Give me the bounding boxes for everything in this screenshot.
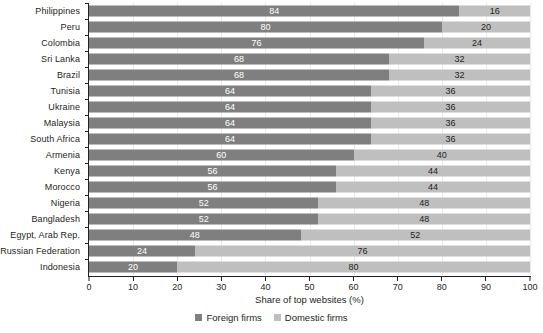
x-tick-label: 50: [304, 283, 314, 292]
category-label: Ukraine: [0, 99, 84, 115]
bar-value-label: 32: [454, 55, 464, 64]
category-label: Colombia: [0, 35, 84, 51]
category-label: Philippines: [0, 3, 84, 19]
legend-label: Domestic firms: [285, 313, 348, 323]
category-label: Tunisia: [0, 83, 84, 99]
bar-row: 6832: [89, 67, 530, 83]
category-label: Egypt, Arab Rep.: [0, 227, 84, 243]
bar-row: 5248: [89, 211, 530, 227]
bar-segment-foreign: 80: [89, 22, 442, 33]
bar-segment-foreign: 56: [89, 182, 336, 193]
bar-track: 6040: [89, 150, 530, 161]
bar-segment-foreign: 48: [89, 230, 301, 241]
bar-segment-domestic: 48: [318, 214, 530, 225]
bar-row: 6436: [89, 115, 530, 131]
bar-value-label: 36: [446, 135, 456, 144]
legend-swatch-icon: [195, 314, 202, 321]
bar-track: 2476: [89, 246, 530, 257]
x-tick-label: 60: [349, 283, 359, 292]
bar-row: 7624: [89, 35, 530, 51]
category-label: Morocco: [0, 179, 84, 195]
bar-segment-domestic: 48: [318, 198, 530, 209]
category-label: Nigeria: [0, 195, 84, 211]
bar-segment-foreign: 64: [89, 102, 371, 113]
bar-segment-domestic: 36: [371, 134, 530, 145]
bar-segment-foreign: 60: [89, 150, 354, 161]
x-axis-tick: 60: [349, 277, 359, 292]
bar-value-label: 56: [207, 183, 217, 192]
bar-value-label: 52: [199, 215, 209, 224]
bar-segment-domestic: 44: [336, 182, 530, 193]
bar-segment-domestic: 20: [442, 22, 530, 33]
bar-track: 2080: [89, 262, 530, 273]
bar-segment-foreign: 52: [89, 198, 318, 209]
bar-segment-domestic: 36: [371, 86, 530, 97]
bar-value-label: 84: [269, 7, 279, 16]
bar-segment-domestic: 24: [424, 38, 530, 49]
bar-value-label: 32: [454, 71, 464, 80]
x-axis-title: Share of top websites (%): [89, 295, 530, 305]
bar-value-label: 80: [260, 23, 270, 32]
legend-item[interactable]: Foreign firms: [195, 313, 261, 323]
bar-row: 8020: [89, 19, 530, 35]
bar-segment-domestic: 36: [371, 118, 530, 129]
bar-segment-foreign: 56: [89, 166, 336, 177]
bar-track: 6436: [89, 102, 530, 113]
bar-segment-domestic: 32: [389, 54, 530, 65]
bar-value-label: 20: [481, 23, 491, 32]
bar-value-label: 20: [128, 263, 138, 272]
bar-row: 2476: [89, 243, 530, 259]
bar-row: 6436: [89, 83, 530, 99]
bar-row: 5644: [89, 179, 530, 195]
x-tickmark: [441, 277, 442, 281]
legend-item[interactable]: Domestic firms: [274, 313, 348, 323]
legend-label: Foreign firms: [206, 313, 261, 323]
x-tick-label: 90: [481, 283, 491, 292]
x-axis-tick: 10: [128, 277, 138, 292]
bar-value-label: 68: [234, 71, 244, 80]
bar-track: 6832: [89, 70, 530, 81]
bar-row: 6436: [89, 99, 530, 115]
x-tick-label: 100: [522, 283, 537, 292]
x-tickmark: [485, 277, 486, 281]
bar-value-label: 80: [349, 263, 359, 272]
x-tickmark: [309, 277, 310, 281]
bar-value-label: 60: [216, 151, 226, 160]
bar-track: 5644: [89, 182, 530, 193]
bar-value-label: 24: [137, 247, 147, 256]
bar-row: 6832: [89, 51, 530, 67]
bar-row: 8416: [89, 3, 530, 19]
x-tick-label: 20: [172, 283, 182, 292]
bar-track: 6436: [89, 118, 530, 129]
x-axis-tick: 20: [172, 277, 182, 292]
bar-segment-domestic: 76: [195, 246, 530, 257]
x-tickmark: [88, 277, 89, 281]
category-label: Kenya: [0, 163, 84, 179]
bar-track: 8416: [89, 6, 530, 17]
bar-row: 6040: [89, 147, 530, 163]
bar-value-label: 40: [437, 151, 447, 160]
category-label: Bangladesh: [0, 211, 84, 227]
x-tick-label: 70: [393, 283, 403, 292]
x-tickmark: [397, 277, 398, 281]
x-tick-label: 40: [260, 283, 270, 292]
x-tickmark: [221, 277, 222, 281]
bar-segment-domestic: 16: [459, 6, 530, 17]
category-label: Armenia: [0, 147, 84, 163]
category-label: Peru: [0, 19, 84, 35]
bar-track: 5248: [89, 198, 530, 209]
bar-row: 5248: [89, 195, 530, 211]
plot-area: PhilippinesPeruColombiaSri LankaBrazilTu…: [0, 0, 543, 282]
stacked-bar-chart: PhilippinesPeruColombiaSri LankaBrazilTu…: [0, 0, 543, 333]
bar-segment-foreign: 64: [89, 86, 371, 97]
bar-value-label: 48: [419, 215, 429, 224]
bar-value-label: 36: [446, 87, 456, 96]
bar-value-label: 48: [419, 199, 429, 208]
bar-segment-domestic: 32: [389, 70, 530, 81]
x-axis-ticks: 0102030405060708090100: [89, 277, 530, 293]
x-tickmark: [177, 277, 178, 281]
bar-segment-foreign: 24: [89, 246, 195, 257]
bar-segment-foreign: 76: [89, 38, 424, 49]
bar-row: 4852: [89, 227, 530, 243]
category-label: Malaysia: [0, 115, 84, 131]
